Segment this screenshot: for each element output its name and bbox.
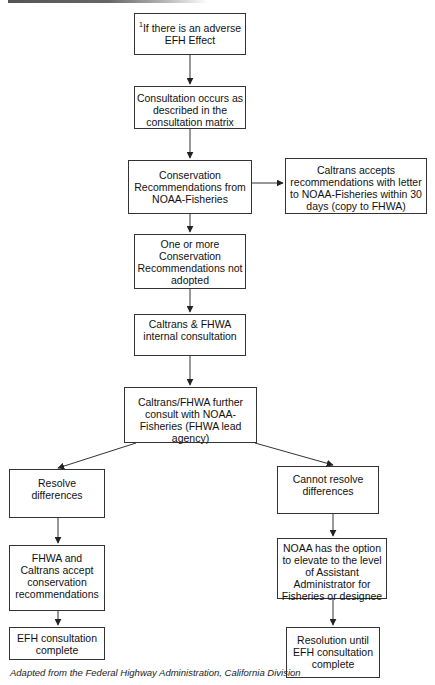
node-text: If there is an adverse EFH Effect — [143, 22, 241, 46]
node-text: Consultation occurs as described in the … — [137, 92, 243, 128]
node-further-consult: Caltrans/FHWA further consult with NOAA-… — [124, 387, 257, 443]
node-text: Caltrans accepts recommendations with le… — [290, 164, 422, 212]
node-text: Cannot resolve differences — [293, 473, 364, 497]
node-text: NOAA has the option to elevate to the le… — [282, 542, 382, 602]
node-text: One or more Conservation Recommendations… — [137, 238, 242, 286]
source-caption: Adapted from the Federal Highway Adminis… — [10, 667, 301, 678]
node-text: Resolve differences — [31, 477, 82, 501]
node-caltrans-accepts: Caltrans accepts recommendations with le… — [285, 158, 427, 214]
node-consultation-occurs: Consultation occurs as described in the … — [134, 86, 246, 129]
node-text: Conservation Recommendations from NOAA-F… — [134, 169, 245, 205]
node-text: Resolution until EFH consultation comple… — [293, 634, 373, 670]
node-internal-consultation: Caltrans & FHWA internal consultation — [134, 314, 246, 356]
node-text: Caltrans/FHWA further consult with NOAA-… — [138, 396, 243, 444]
node-adverse-effect: 1If there is an adverse EFH Effect — [134, 13, 246, 55]
node-noaa-elevate: NOAA has the option to elevate to the le… — [277, 538, 387, 599]
node-text: FHWA and Caltrans accept conservation re… — [15, 552, 98, 600]
node-conservation-recommendations: Conservation Recommendations from NOAA-F… — [128, 160, 252, 214]
node-text: Caltrans & FHWA internal consultation — [143, 318, 236, 342]
node-fhwa-caltrans-accept: FHWA and Caltrans accept conservation re… — [9, 545, 105, 611]
node-not-adopted: One or more Conservation Recommendations… — [134, 234, 246, 289]
node-resolve-differences: Resolve differences — [9, 469, 105, 518]
node-cannot-resolve: Cannot resolve differences — [277, 466, 379, 514]
node-text: EFH consultation complete — [17, 632, 97, 656]
node-efh-complete-left: EFH consultation complete — [9, 627, 105, 660]
